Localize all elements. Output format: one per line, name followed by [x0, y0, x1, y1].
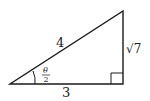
hypotenuse-label: 4 [56, 35, 64, 50]
angle-arc [33, 71, 35, 84]
right-triangle-diagram: 4 √7 3 θ 2 [0, 0, 150, 101]
horizontal-leg-label: 3 [62, 85, 70, 100]
angle-numerator-label: θ [43, 66, 48, 75]
vertical-leg-label: √7 [126, 42, 141, 56]
triangle [10, 11, 123, 84]
right-angle-marker [111, 73, 123, 84]
angle-denominator-label: 2 [44, 75, 49, 84]
